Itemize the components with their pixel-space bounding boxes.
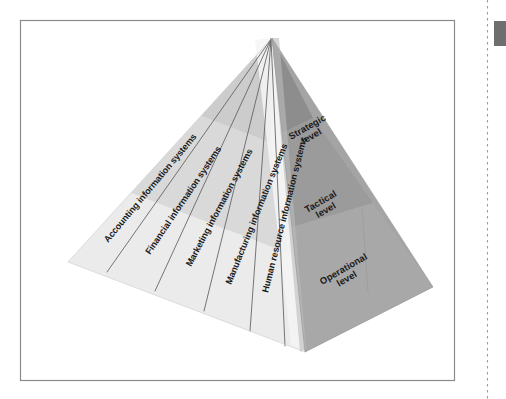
figure-canvas: Accounting information systems Financial… [0,0,506,399]
margin-mark-block [494,21,506,46]
